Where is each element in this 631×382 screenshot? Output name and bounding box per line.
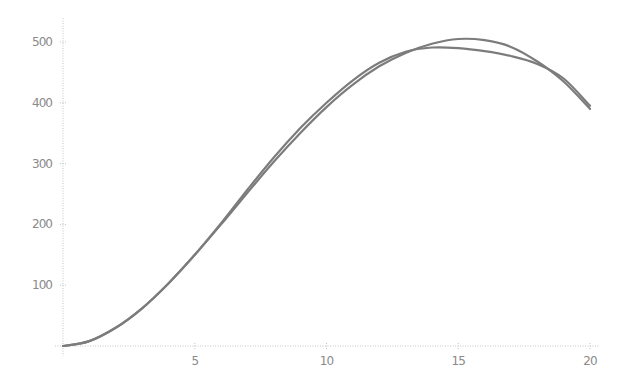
x-axis: 5101520 <box>55 343 600 368</box>
y-axis: 100200300400500 <box>32 18 66 356</box>
x-tick-label: 5 <box>191 354 198 368</box>
y-tick-label: 400 <box>32 96 52 110</box>
series-line-curve-a <box>63 39 590 346</box>
x-tick-label: 15 <box>452 354 466 368</box>
line-chart: 100200300400500 5101520 <box>0 0 631 382</box>
x-tick-label: 10 <box>320 354 334 368</box>
y-tick-label: 100 <box>32 278 52 292</box>
y-tick-label: 500 <box>32 35 52 49</box>
y-tick-label: 200 <box>32 217 52 231</box>
x-tick-label: 20 <box>583 354 597 368</box>
plot-area <box>63 39 590 346</box>
series-line-curve-b <box>63 47 590 346</box>
y-tick-label: 300 <box>32 157 52 171</box>
